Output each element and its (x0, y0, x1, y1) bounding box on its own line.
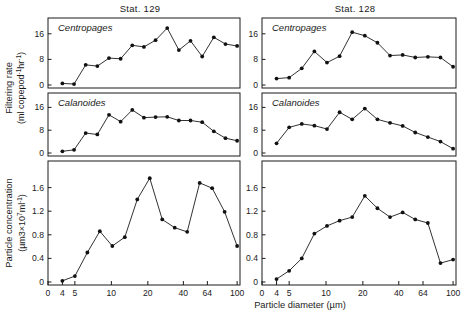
data-point (107, 56, 111, 60)
data-point (287, 76, 291, 80)
x-tick-label: 4 (274, 288, 279, 298)
data-point (198, 181, 202, 185)
data-point (426, 221, 430, 225)
data-point (123, 235, 127, 239)
y-axis-title-particle: Particle concentration (4, 178, 14, 267)
data-point (177, 48, 181, 52)
x-tick-label: 4 (60, 288, 65, 298)
data-point (451, 147, 455, 151)
data-point (224, 136, 228, 140)
y-tick-label: 8 (253, 54, 258, 64)
data-point (363, 34, 367, 38)
y-tick-label: 0 (253, 80, 258, 90)
data-point (401, 53, 405, 57)
data-point (439, 56, 443, 60)
data-point (135, 198, 139, 202)
chart-svg: Stat. 129Stat. 1280816Centropages0816Cal… (0, 0, 468, 318)
data-point (413, 218, 417, 222)
y-tick-label: 0.4 (32, 253, 44, 263)
y-tick-label: 1.2 (246, 206, 258, 216)
x-axis-title: Particle diameter (µm) (254, 300, 346, 310)
y-axis-title-filtering: Filtering rate (4, 62, 14, 114)
x-tick-label: 10 (321, 288, 331, 298)
data-point (413, 131, 417, 135)
x-tick-label: 20 (358, 288, 368, 298)
data-point (300, 122, 304, 126)
data-point (325, 127, 329, 131)
column-title-left: Stat. 129 (120, 3, 161, 14)
x-tick-label: 10 (107, 288, 117, 298)
x-tick-label: 64 (418, 288, 428, 298)
data-point (130, 43, 134, 47)
data-point (413, 56, 417, 60)
data-point (235, 44, 239, 48)
y-tick-label: 0 (253, 148, 258, 158)
data-point (388, 54, 392, 58)
y-tick-label: 0.8 (246, 230, 258, 240)
data-point (61, 279, 65, 283)
data-point (189, 39, 193, 43)
y-tick-label: 1.2 (32, 206, 44, 216)
x-tick-label: 5 (287, 288, 292, 298)
data-point (388, 215, 392, 219)
y-tick-label: 16 (34, 29, 44, 39)
data-point (61, 149, 65, 153)
data-point (73, 274, 77, 278)
data-point (98, 229, 102, 233)
data-point (200, 120, 204, 124)
data-point (376, 117, 380, 121)
data-point (107, 113, 111, 117)
y-tick-label: 16 (248, 29, 258, 39)
x-tick-label: 40 (179, 288, 189, 298)
y-axis-title-particle-text: Particle concentration (4, 178, 14, 267)
series-label: Calanoides (272, 97, 320, 108)
y-tick-label: 8 (39, 54, 44, 64)
data-point (110, 244, 114, 248)
data-point (350, 215, 354, 219)
x-tick-label: 100 (230, 288, 245, 298)
data-point (185, 230, 189, 234)
data-point (376, 41, 380, 45)
data-point (325, 224, 329, 228)
data-point (312, 50, 316, 54)
y-tick-label: 8 (253, 125, 258, 135)
data-point (165, 26, 169, 30)
y-tick-label: 0 (39, 148, 44, 158)
data-point (154, 115, 158, 119)
y-tick-label: 0 (39, 80, 44, 90)
data-point (177, 119, 181, 123)
data-point (84, 63, 88, 67)
column-title-right: Stat. 128 (335, 3, 376, 14)
x-tick-label: 64 (203, 288, 213, 298)
data-point (439, 140, 443, 144)
data-point (401, 124, 405, 128)
x-tick-label: 0 (260, 288, 265, 298)
x-tick-label: 20 (143, 288, 153, 298)
data-point (119, 57, 123, 61)
data-point (142, 116, 146, 120)
data-point (338, 54, 342, 58)
data-point (212, 35, 216, 39)
data-point (142, 45, 146, 49)
y-axis-units-filtering: (ml copepod-1hr-1) (15, 52, 27, 124)
x-tick-label: 5 (72, 288, 77, 298)
data-point (275, 141, 279, 145)
data-point (376, 206, 380, 210)
data-point (72, 82, 76, 86)
data-point (61, 82, 65, 86)
data-point (363, 194, 367, 198)
data-point (235, 139, 239, 143)
x-tick-label: 0 (46, 288, 51, 298)
data-point (200, 55, 204, 59)
figure-container: Stat. 129Stat. 1280816Centropages0816Cal… (0, 0, 468, 318)
data-point (224, 42, 228, 46)
data-point (72, 148, 76, 152)
data-point (84, 131, 88, 135)
data-point (451, 258, 455, 262)
data-point (363, 107, 367, 111)
data-point (210, 186, 214, 190)
data-point (300, 66, 304, 70)
y-axis-units-filtering-text: (ml copepod-1hr-1) (15, 52, 27, 124)
data-point (130, 108, 134, 112)
data-point (189, 119, 193, 123)
